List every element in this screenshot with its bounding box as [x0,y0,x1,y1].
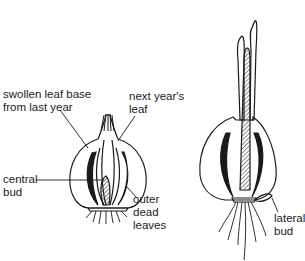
label-outer-dead-leaves: outer dead leaves [133,193,166,232]
right-roots [219,202,266,260]
right-bulb [200,21,276,260]
label-swollen-leaf-base: swollen leaf base from last year [3,88,91,114]
leader-next-years-leaf [118,116,135,141]
leader-swollen-leaf-base [60,110,88,148]
label-central-bud: central bud [3,173,38,199]
tall-leaf [250,21,257,120]
central-shoot [240,48,250,190]
right-bulb-outline [200,117,276,200]
leader-lateral-bud [272,198,278,212]
label-lateral-bud: lateral bud [274,212,305,238]
left-roots [86,211,127,224]
label-next-years-leaf: next year's leaf [129,90,184,116]
